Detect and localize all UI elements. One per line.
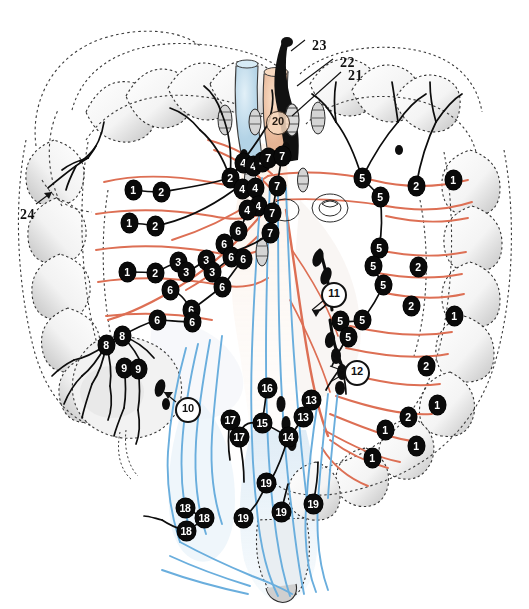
- leader-23: [291, 40, 305, 51]
- lymph-node-marker-5: 5: [354, 310, 371, 330]
- lymph-node-marker-19: 19: [304, 494, 323, 514]
- lymph-node-marker-19: 19: [234, 508, 253, 528]
- lymph-node-marker-7: 7: [262, 223, 279, 243]
- lymph-node-marker-18: 18: [176, 498, 195, 518]
- lymph-node-marker-2: 2: [400, 407, 417, 427]
- lymph-node-marker-6: 6: [162, 280, 179, 300]
- lymph-node-marker-2: 2: [147, 216, 164, 236]
- lymph-node-marker-6: 6: [235, 249, 252, 269]
- lymph-node-marker-2: 2: [408, 176, 425, 196]
- lymph-node-marker-18: 18: [177, 521, 196, 541]
- lymph-node-marker-14: 14: [279, 427, 298, 447]
- lymph-node-marker-1: 1: [445, 170, 462, 190]
- lymph-node-marker-8: 8: [98, 335, 115, 355]
- lymph-node-marker-16: 16: [258, 378, 277, 398]
- lymph-node-marker-6: 6: [214, 277, 231, 297]
- callout-marker-10: 10: [175, 397, 201, 423]
- lymph-node-marker-15: 15: [253, 413, 272, 433]
- lymph-node-marker-1: 1: [408, 436, 425, 456]
- lymph-node-marker-18: 18: [195, 508, 214, 528]
- lymph-node-marker-8: 8: [114, 326, 131, 346]
- lymph-node-marker-1: 1: [364, 448, 381, 468]
- lymph-node-marker-7: 7: [269, 176, 286, 196]
- leader-label-21: 21: [348, 68, 363, 84]
- lymph-node-marker-17: 17: [230, 427, 249, 447]
- lymph-node-marker-5: 5: [365, 256, 382, 276]
- lymph-node-marker-5: 5: [371, 238, 388, 258]
- lymph-node-marker-19: 19: [257, 473, 276, 493]
- lymph-node-marker-9: 9: [130, 359, 147, 379]
- lymph-node-marker-1: 1: [119, 262, 136, 282]
- lymph-node-marker-13: 13: [294, 407, 313, 427]
- callout-marker-11: 11: [321, 282, 347, 308]
- leader-label-23: 23: [312, 38, 327, 54]
- lymph-node-marker-7: 7: [264, 203, 281, 223]
- anatomical-figure: 2121212333344444447777766666666688995555…: [0, 0, 529, 609]
- lymph-node-marker-1: 1: [125, 180, 142, 200]
- lymph-node-marker-6: 6: [230, 221, 247, 241]
- lymph-node-marker-5: 5: [372, 187, 389, 207]
- lymph-node-marker-7: 7: [274, 146, 291, 166]
- lymph-node-marker-2: 2: [147, 263, 164, 283]
- lymph-node-marker-4: 4: [239, 200, 256, 220]
- lymph-node-marker-5: 5: [340, 327, 357, 347]
- callout-marker-20: 20: [266, 111, 290, 135]
- lymph-node-marker-5: 5: [375, 275, 392, 295]
- lymph-node-marker-6: 6: [184, 312, 201, 332]
- lymph-node-marker-2: 2: [418, 356, 435, 376]
- lymph-node-marker-2: 2: [410, 257, 427, 277]
- callout-marker-12: 12: [344, 360, 370, 386]
- lymph-node-marker-5: 5: [354, 168, 371, 188]
- lymph-node-marker-1: 1: [446, 306, 463, 326]
- colon-lymphatic-illustration: [0, 0, 529, 609]
- lymph-node-marker-1: 1: [121, 213, 138, 233]
- lymph-node-marker-19: 19: [272, 502, 291, 522]
- lymph-node-marker-3: 3: [178, 262, 195, 282]
- lymph-node-marker-6: 6: [149, 310, 166, 330]
- lymph-node-marker-4: 4: [247, 178, 264, 198]
- lymph-node-marker-1: 1: [377, 420, 394, 440]
- leader-label-24: 24: [20, 207, 35, 223]
- lymph-node-marker-2: 2: [153, 182, 170, 202]
- lymph-node-marker-1: 1: [429, 395, 446, 415]
- lymph-node-marker-2: 2: [403, 296, 420, 316]
